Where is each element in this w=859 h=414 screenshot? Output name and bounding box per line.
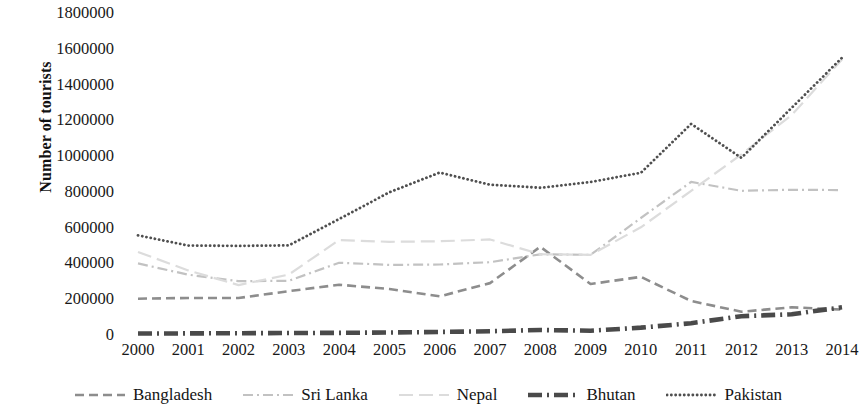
legend-item-label: Pakistan [725, 386, 783, 404]
series-line-nepal [138, 60, 842, 286]
legend-item[interactable]: Bhutan [527, 386, 635, 404]
legend-item-label: Nepal [457, 386, 498, 404]
x-axis-tick-label: 2006 [423, 340, 456, 360]
legend-item[interactable]: Nepal [398, 386, 498, 404]
x-axis-tick-label: 2014 [826, 340, 859, 360]
long-dash-line-swatch [398, 388, 450, 402]
y-axis-tick-labels: 1800000160000014000001200000100000080000… [0, 0, 118, 350]
y-axis-tick-label: 800000 [65, 184, 115, 200]
series-line-bangladesh [138, 247, 842, 312]
x-axis-tick-labels: 2000200120022003200420052006200720082009… [120, 340, 850, 366]
x-axis-tick-label: 2013 [775, 340, 808, 360]
y-axis-tick-label: 0 [106, 327, 114, 343]
legend-item[interactable]: Bangladesh [74, 386, 212, 404]
y-axis-tick-label: 1200000 [56, 112, 114, 128]
dash-dot-line-swatch [242, 388, 294, 402]
x-axis-tick-label: 2003 [272, 340, 305, 360]
x-axis-tick-label: 2002 [222, 340, 255, 360]
legend-item-label: Bhutan [586, 386, 635, 404]
plot-svg [120, 6, 850, 336]
y-axis-tick-label: 1800000 [56, 5, 114, 21]
x-axis-tick-label: 2005 [373, 340, 406, 360]
series-line-sri-lanka [138, 182, 842, 281]
x-axis-tick-label: 2007 [474, 340, 507, 360]
y-axis-tick-label: 200000 [65, 291, 115, 307]
x-axis-tick-label: 2010 [624, 340, 657, 360]
y-axis-tick-label: 1000000 [56, 148, 114, 164]
x-axis-tick-label: 2008 [524, 340, 557, 360]
x-axis-tick-label: 2000 [122, 340, 155, 360]
y-axis-tick-label: 1600000 [56, 41, 114, 57]
chart-legend: BangladeshSri LankaNepalBhutanPakistan [0, 378, 856, 412]
legend-item-label: Bangladesh [133, 386, 212, 404]
y-axis-tick-label: 400000 [65, 255, 115, 271]
series-line-pakistan [138, 58, 842, 246]
legend-item[interactable]: Pakistan [666, 386, 783, 404]
y-axis-tick-label: 1400000 [56, 77, 114, 93]
legend-item-label: Sri Lanka [301, 386, 368, 404]
x-axis-tick-label: 2001 [172, 340, 205, 360]
dashed-line-swatch [74, 388, 126, 402]
x-axis-tick-label: 2004 [323, 340, 356, 360]
x-axis-tick-label: 2011 [675, 340, 707, 360]
thick-dash-dot-line-swatch [527, 388, 579, 402]
x-axis-tick-label: 2009 [574, 340, 607, 360]
y-axis-tick-label: 600000 [65, 220, 115, 236]
x-axis-tick-label: 2012 [725, 340, 758, 360]
plot-area [120, 6, 850, 336]
legend-item[interactable]: Sri Lanka [242, 386, 368, 404]
dotted-line-swatch [666, 388, 718, 402]
